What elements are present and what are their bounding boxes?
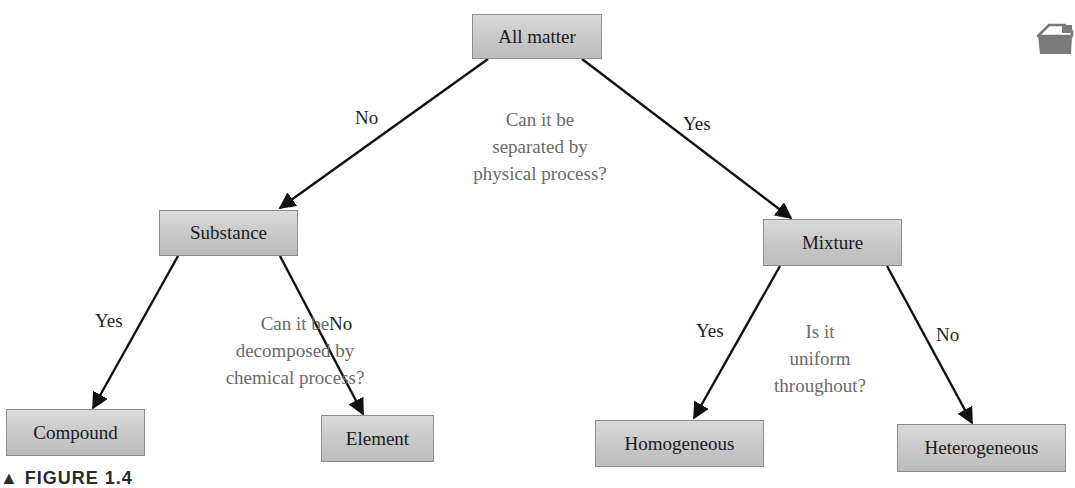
edge-label-substance-yes: Yes	[95, 310, 123, 332]
edge-root-mixture	[582, 59, 791, 218]
figure-caption: ▲ FIGURE 1.4	[0, 468, 133, 488]
question-line: throughout?	[755, 372, 885, 399]
edge-label-mixture-no: No	[936, 324, 959, 346]
question-physical-separation: Can it be separated by physical process?	[470, 106, 610, 187]
node-element: Element	[321, 415, 434, 462]
node-compound: Compound	[6, 409, 145, 456]
question-line: Can it be	[205, 310, 385, 337]
node-substance: Substance	[159, 210, 298, 256]
question-uniformity: Is it uniform throughout?	[755, 318, 885, 399]
node-heterogeneous: Heterogeneous	[897, 424, 1066, 472]
question-line: physical process?	[470, 160, 610, 187]
edge-label-mixture-yes: Yes	[696, 320, 724, 342]
node-homogeneous: Homogeneous	[595, 420, 764, 467]
edge-substance-compound	[93, 256, 178, 408]
edge-label-root-yes: Yes	[683, 113, 711, 135]
edge-root-substance	[280, 59, 488, 208]
question-line: Can it be	[470, 106, 610, 133]
question-line: separated by	[470, 133, 610, 160]
node-all-matter: All matter	[472, 14, 602, 59]
question-line: decomposed by	[205, 337, 385, 364]
node-mixture: Mixture	[763, 219, 902, 266]
question-line: Is it	[755, 318, 885, 345]
edge-mixture-heterogeneous	[887, 266, 972, 423]
edge-label-root-no: No	[355, 107, 378, 129]
question-chemical-decomposition: Can it be decomposed by chemical process…	[205, 310, 385, 391]
question-line: uniform	[755, 345, 885, 372]
question-line: chemical process?	[205, 364, 385, 391]
page-corner-marker-icon	[1035, 22, 1075, 56]
